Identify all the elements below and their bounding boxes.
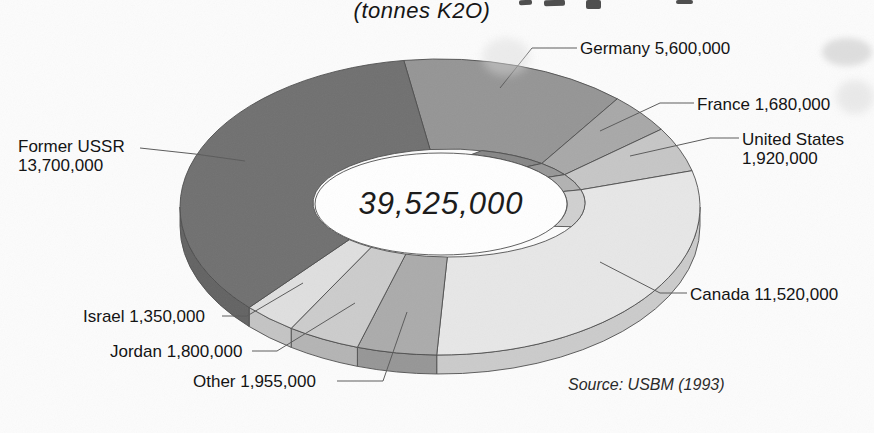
chart-figure: (tonnes K2O) 39,525,000 Source: USBM (19…	[0, 0, 874, 433]
segment-label: Jordan 1,800,000	[110, 342, 242, 361]
segment-label: Former USSR13,700,000	[18, 137, 125, 175]
segment-label: United States1,920,000	[742, 130, 844, 168]
segment-label-line: Canada 11,520,000	[690, 285, 838, 304]
segment-label: Israel 1,350,000	[83, 307, 205, 326]
center-total-value: 39,525,000	[358, 186, 523, 222]
segment-label: Canada 11,520,000	[690, 285, 838, 304]
segment-label: Germany 5,600,000	[580, 39, 730, 58]
chart-title: (tonnes K2O)	[354, 0, 491, 24]
segment-label: France 1,680,000	[697, 95, 830, 114]
segment-label: Other 1,955,000	[193, 372, 316, 391]
segment-label-line: Germany 5,600,000	[580, 39, 730, 58]
segment-label-line: Former USSR	[18, 137, 125, 156]
segment-label-line: 1,920,000	[742, 149, 844, 168]
segment-label-line: Israel 1,350,000	[83, 307, 205, 326]
source-note: Source: USBM (1993)	[568, 376, 725, 394]
segment-label-line: France 1,680,000	[697, 95, 830, 114]
segment-label-line: Other 1,955,000	[193, 372, 316, 391]
segment-label-line: Jordan 1,800,000	[110, 342, 242, 361]
segment-label-line: United States	[742, 130, 844, 149]
segment-label-line: 13,700,000	[18, 156, 125, 175]
